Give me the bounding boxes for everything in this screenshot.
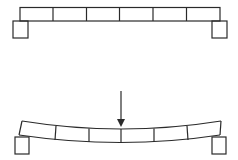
beam-end-right [220, 121, 221, 135]
deflected-beam-bottom-edge [19, 135, 220, 143]
loaded-beam-assembly [15, 91, 226, 154]
left-support [15, 137, 29, 154]
unloaded-beam-assembly [13, 8, 227, 39]
left-support [13, 21, 28, 38]
beam-bending-diagram [0, 0, 238, 160]
arrow-down-icon [117, 119, 125, 127]
segment-divider [187, 126, 188, 140]
beam-end-left [19, 121, 22, 135]
segment-divider [55, 126, 56, 140]
right-support [212, 21, 227, 38]
right-support [212, 137, 226, 154]
